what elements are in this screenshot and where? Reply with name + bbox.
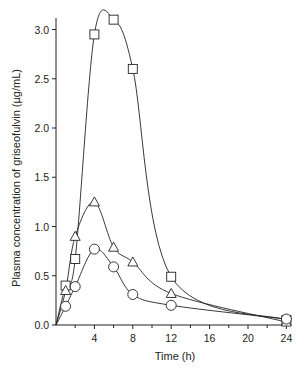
y-tick-label: 3.0 — [34, 24, 49, 36]
y-tick-label: 2.5 — [34, 73, 49, 85]
triangle-marker — [89, 197, 99, 206]
y-tick-label: 0.5 — [34, 270, 49, 282]
x-tick-label: 12 — [165, 332, 177, 344]
axes: 0.00.51.01.52.02.53.04812162024 — [34, 18, 292, 344]
triangle-marker — [70, 231, 80, 240]
square-marker — [109, 15, 118, 24]
circle-marker — [89, 244, 99, 254]
x-tick-label: 20 — [242, 332, 254, 344]
circle-marker — [128, 289, 138, 299]
square-marker — [71, 255, 80, 264]
triangle-marker — [166, 288, 176, 297]
circle-series-curve — [56, 249, 286, 325]
triangle-marker — [109, 242, 119, 251]
y-axis-label: Plasma concentration of griseofulvin (µg… — [10, 69, 22, 287]
x-tick-label: 8 — [130, 332, 136, 344]
circle-marker — [70, 282, 80, 292]
y-tick-label: 0.0 — [34, 319, 49, 331]
x-tick-label: 24 — [281, 332, 293, 344]
y-tick-label: 1.0 — [34, 221, 49, 233]
pharmacokinetic-chart: 0.00.51.01.52.02.53.04812162024 Time (h)… — [0, 0, 306, 374]
square-marker — [128, 64, 137, 73]
square-marker — [167, 272, 176, 281]
series-markers — [61, 15, 292, 326]
x-tick-label: 16 — [204, 332, 216, 344]
triangle-marker — [128, 257, 138, 266]
y-tick-label: 2.0 — [34, 122, 49, 134]
y-tick-label: 1.5 — [34, 171, 49, 183]
x-axis-label: Time (h) — [155, 350, 196, 362]
circle-marker — [166, 300, 176, 310]
chart-canvas: 0.00.51.01.52.02.53.04812162024 Time (h)… — [0, 0, 306, 374]
square-marker — [90, 30, 99, 39]
circle-marker — [109, 262, 119, 272]
circle-marker — [61, 301, 71, 311]
circle-marker — [281, 314, 291, 324]
x-tick-label: 4 — [91, 332, 97, 344]
